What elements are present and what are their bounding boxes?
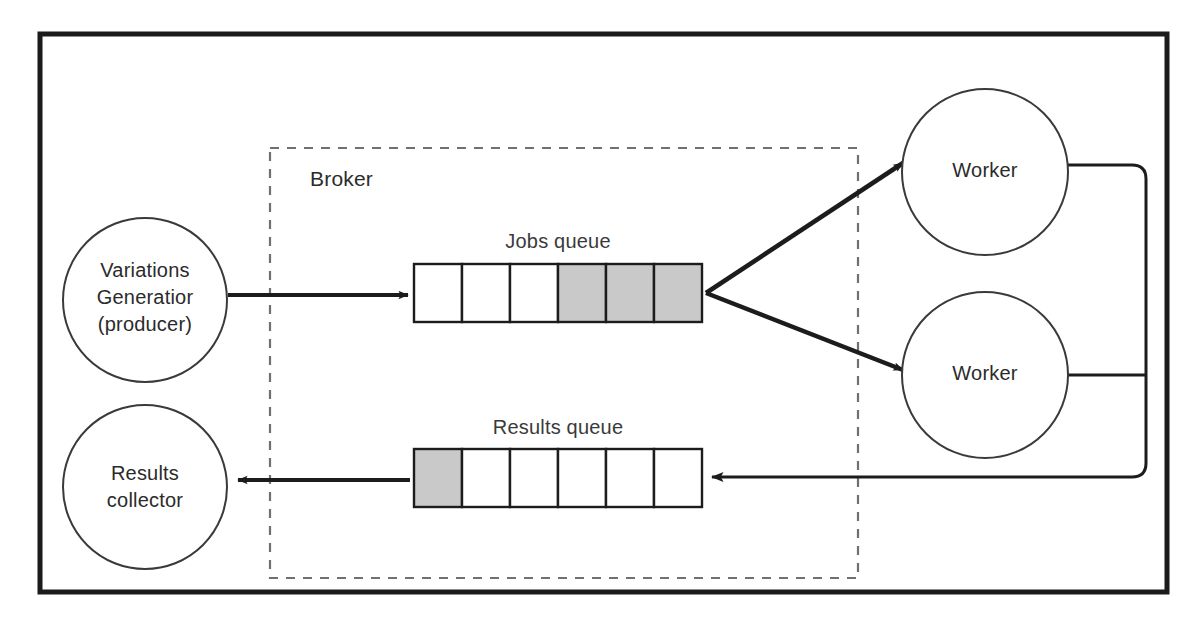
- results-collector-label-line-1: Results: [111, 462, 179, 484]
- broker-label: Broker: [310, 167, 373, 190]
- jobs-queue-cell-1[interactable]: [462, 264, 510, 322]
- results-queue-cell-2[interactable]: [510, 449, 558, 507]
- results-queue-label: Results queue: [493, 416, 623, 438]
- results-queue-cell-5[interactable]: [654, 449, 702, 507]
- jobs-queue-cell-5[interactable]: [654, 264, 702, 322]
- results-collector-label-line-2: collector: [107, 489, 183, 511]
- results-queue-cell-0[interactable]: [414, 449, 462, 507]
- producer-label-line-1: Variations: [100, 259, 189, 281]
- jobs-queue-cell-4[interactable]: [606, 264, 654, 322]
- worker-top-label: Worker: [952, 159, 1017, 181]
- producer-label-line-3: (producer): [98, 313, 192, 335]
- jobs-queue-label: Jobs queue: [505, 230, 610, 252]
- node-worker-bottom[interactable]: Worker: [902, 292, 1068, 458]
- worker-bottom-label: Worker: [952, 362, 1017, 384]
- jobs-queue-cell-3[interactable]: [558, 264, 606, 322]
- producer-label-line-2: Generatior: [97, 286, 194, 308]
- results-queue-cell-1[interactable]: [462, 449, 510, 507]
- jobs-queue-cell-2[interactable]: [510, 264, 558, 322]
- diagram-canvas: Broker Jobs queue: [0, 0, 1201, 626]
- jobs-queue-cells: [414, 264, 702, 322]
- node-producer[interactable]: Variations Generatior (producer): [63, 218, 227, 382]
- diagram-svg: Broker Jobs queue: [0, 0, 1201, 626]
- results-collector-circle: [63, 405, 227, 569]
- results-queue-cell-4[interactable]: [606, 449, 654, 507]
- node-results-collector[interactable]: Results collector: [63, 405, 227, 569]
- node-worker-top[interactable]: Worker: [902, 89, 1068, 255]
- results-queue-cells: [414, 449, 702, 507]
- results-queue-cell-3[interactable]: [558, 449, 606, 507]
- jobs-queue-cell-0[interactable]: [414, 264, 462, 322]
